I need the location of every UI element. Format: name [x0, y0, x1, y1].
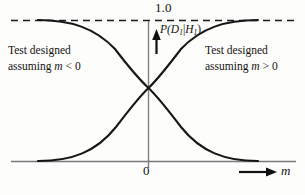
origin-label: 0 — [143, 163, 150, 178]
probability-h: H — [185, 23, 193, 35]
annotation-right-variable: m — [251, 60, 259, 72]
x-axis-variable-label: m — [281, 163, 290, 178]
annotation-left-line1: Test designed — [8, 43, 81, 59]
annotation-left-relation: < 0 — [63, 60, 81, 72]
probability-h-subscript: 1 — [194, 28, 198, 37]
annotation-right: Test designed assuming m > 0 — [205, 43, 278, 74]
probability-label: P(D1|H1) — [160, 23, 201, 37]
annotation-left: Test designed assuming m < 0 — [8, 43, 81, 74]
annotation-left-variable: m — [54, 60, 62, 72]
probability-close-paren: ) — [197, 23, 201, 35]
annotation-right-line2: assuming m > 0 — [205, 59, 278, 75]
probability-d-subscript: 1 — [179, 28, 183, 37]
x-axis-arrow-icon — [239, 168, 277, 177]
annotation-left-prefix: assuming — [8, 60, 54, 72]
annotation-left-line2: assuming m < 0 — [8, 59, 81, 75]
probability-d: D — [171, 23, 179, 35]
upper-asymptote-label: 1.0 — [155, 0, 172, 15]
probability-p: P( — [160, 23, 171, 35]
annotation-right-prefix: assuming — [205, 60, 251, 72]
plot-canvas — [0, 0, 305, 195]
annotation-right-relation: > 0 — [260, 60, 278, 72]
annotation-right-line1: Test designed — [205, 43, 278, 59]
probability-curves-figure: 1.0 0 m P(D1|H1) Test designed assuming … — [0, 0, 305, 195]
